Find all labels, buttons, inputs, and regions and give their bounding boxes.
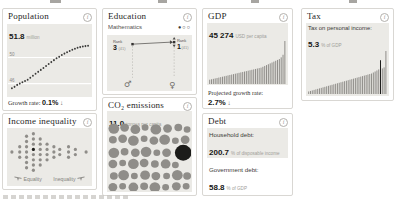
info-icon[interactable]: i: [279, 118, 288, 127]
svg-text:46: 46: [9, 77, 14, 82]
pagination-dots[interactable]: ●○○: [178, 24, 191, 30]
card-title: Education: [108, 11, 146, 21]
government-debt-label: Government debt:: [209, 166, 259, 173]
inequality-scale-icon: [77, 176, 85, 182]
debt-card[interactable]: Debt i Household debt: 200.7% of disposa…: [202, 113, 293, 196]
cut-off-text-artifact: [158, 0, 167, 3]
income-inequality-card[interactable]: Income inequality i Equality Inequality: [2, 113, 97, 190]
household-debt-label: Household debt:: [209, 131, 254, 138]
household-debt-value: 200.7: [209, 148, 229, 157]
co2-bubble-chart: [108, 122, 191, 191]
gdp-value: 45 274: [209, 31, 233, 40]
government-debt-unit: % of GDP: [227, 186, 247, 191]
gdp-card[interactable]: GDP i 45 274USD per capita Projected gro…: [202, 8, 293, 109]
svg-text:(41): (41): [119, 46, 127, 51]
svg-text:♂: ♂: [124, 79, 132, 89]
svg-text:♀: ♀: [169, 80, 175, 90]
co2-emissions-card[interactable]: CO₂ emissions i 11.0tonnes per capita: [102, 97, 197, 196]
tax-card[interactable]: Tax i Tax on personal income: 5.3% of GD…: [301, 8, 394, 101]
growth-rate-value: 0.1%: [42, 98, 58, 107]
tax-label: Tax on personal income:: [308, 25, 372, 31]
tax-bar-chart: [308, 50, 387, 94]
info-icon[interactable]: i: [183, 13, 192, 22]
card-title: Population: [8, 11, 49, 21]
education-rank-chart: Rank3(41)Rank1(41)♂♀: [107, 35, 192, 91]
card-title: Tax: [307, 11, 321, 21]
inequality-dot-chart: [8, 130, 91, 174]
gdp-unit: USD per capita: [235, 34, 266, 39]
tax-value: 5.3: [308, 40, 319, 49]
gdp-bar-chart: [209, 40, 286, 84]
card-title: Income inequality: [8, 116, 77, 126]
cut-off-text-artifact: [3, 195, 129, 199]
card-title: Debt: [208, 116, 226, 126]
down-arrow-icon: ↓: [60, 99, 63, 106]
education-card[interactable]: Education i Mathematics ●○○ Rank3(41)Ran…: [102, 8, 197, 95]
down-arrow-icon: ↓: [227, 99, 230, 106]
equality-scale-icon: [14, 176, 22, 182]
svg-text:50: 50: [9, 51, 14, 56]
info-icon[interactable]: i: [183, 102, 192, 111]
equality-label: Equality: [23, 176, 41, 182]
population-chart: 5046: [8, 36, 91, 96]
card-title: GDP: [208, 11, 227, 21]
card-title: CO₂ emissions: [108, 100, 164, 110]
inequality-label: Inequality: [53, 176, 75, 182]
government-debt-value: 58.8: [209, 183, 225, 192]
gdp-projected-value: 2.7%: [208, 98, 226, 107]
growth-rate-label: Growth rate:: [8, 99, 40, 106]
svg-text:(41): (41): [182, 45, 190, 50]
info-icon[interactable]: i: [279, 13, 288, 22]
cut-off-text-artifact: [251, 0, 259, 3]
info-icon[interactable]: i: [83, 13, 92, 22]
svg-text:3: 3: [113, 44, 117, 51]
cut-off-text-artifact: [50, 0, 61, 3]
dashboard: Population i 51.8million 5046 Growth rat…: [0, 0, 396, 201]
gdp-projected-label: Projected growth rate:: [208, 89, 263, 96]
household-debt-unit: % of disposable income: [231, 151, 280, 156]
education-subject-label: Mathematics: [108, 24, 142, 30]
svg-text:1: 1: [177, 43, 181, 50]
population-card[interactable]: Population i 51.8million 5046 Growth rat…: [2, 8, 97, 111]
info-icon[interactable]: i: [83, 118, 92, 127]
tax-unit: % of GDP: [321, 43, 341, 48]
info-icon[interactable]: i: [380, 13, 389, 22]
cut-off-text-artifact: [349, 0, 357, 3]
